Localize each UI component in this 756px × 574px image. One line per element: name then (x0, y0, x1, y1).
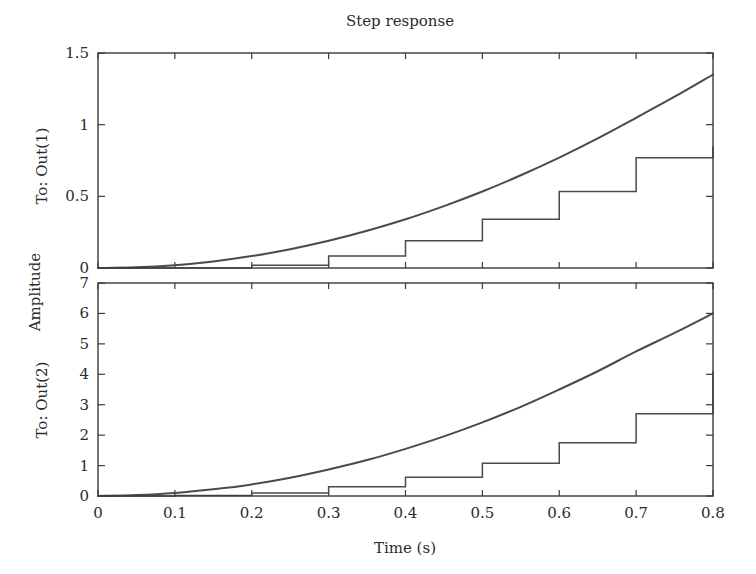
y-tick-label: 5 (79, 335, 89, 353)
chart-title: Step response (346, 12, 454, 30)
y-tick-label: 1 (79, 116, 89, 134)
y-tick-label: 4 (79, 365, 89, 383)
x-axis-label: Time (s) (374, 539, 436, 557)
x-tick-label: 0.8 (701, 504, 725, 522)
x-tick-label: 0.5 (470, 504, 494, 522)
x-tick-label: 0.2 (240, 504, 264, 522)
x-tick-label: 0 (93, 504, 103, 522)
step-response-figure: Step response To: Out(1) To: Out(2) Ampl… (0, 0, 756, 574)
y-tick-label: 3 (79, 396, 89, 414)
figure-background (0, 0, 756, 574)
chart-canvas: Step response To: Out(1) To: Out(2) Ampl… (0, 0, 756, 574)
y-tick-label: 6 (79, 304, 89, 322)
x-tick-label: 0.6 (547, 504, 571, 522)
x-tick-label: 0.3 (317, 504, 341, 522)
y-axis-label: Amplitude (26, 253, 44, 333)
x-tick-label: 0.1 (163, 504, 187, 522)
y-tick-label: 0.5 (65, 187, 89, 205)
y-tick-label: 1.5 (65, 44, 89, 62)
y-tick-label: 2 (79, 426, 89, 444)
y-tick-label: 7 (79, 274, 89, 292)
y-tick-label: 0 (79, 487, 89, 505)
row-label-out1: To: Out(1) (33, 128, 51, 205)
row-label-out2: To: Out(2) (33, 362, 51, 439)
x-tick-label: 0.4 (394, 504, 418, 522)
y-tick-label: 1 (79, 457, 89, 475)
x-tick-label: 0.7 (624, 504, 648, 522)
